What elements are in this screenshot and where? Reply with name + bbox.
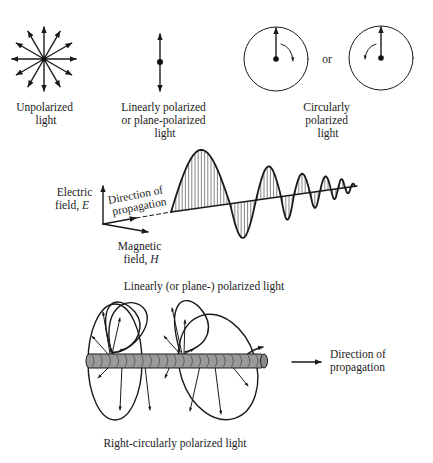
circular-clockwise-icon: [244, 27, 308, 91]
polarization-figure: Unpolarized light Linearly polarized or …: [0, 0, 433, 463]
linear-wave-caption: Linearly (or plane-) polarized light: [124, 280, 285, 293]
circular-wave-diagram: Direction of propagation: [86, 301, 389, 430]
electric-field-label: Electric field, E: [55, 186, 95, 212]
wave-hatching: [173, 150, 353, 238]
propagation-label: Direction of propagation: [107, 183, 169, 219]
propagation-rod: [86, 354, 268, 368]
or-separator: or: [322, 53, 332, 65]
magnetic-field-label: Magnetic field, H: [118, 240, 164, 266]
circular-wave-caption: Right-circularly polarized light: [103, 437, 247, 450]
linearly-polarized-light-icon: [157, 34, 163, 91]
linear-wave-diagram: Electric field, E Direction of propagati…: [55, 150, 357, 266]
circular-counterclockwise-icon: [349, 26, 413, 90]
unpolarized-light-icon: [12, 27, 76, 91]
circularly-polarized-label: Circularly polarized light: [303, 101, 353, 140]
circular-propagation-label: Direction of propagation: [330, 348, 389, 374]
linearly-polarized-label: Linearly polarized or plane-polarized li…: [121, 101, 209, 140]
unpolarized-label: Unpolarized light: [16, 101, 76, 127]
